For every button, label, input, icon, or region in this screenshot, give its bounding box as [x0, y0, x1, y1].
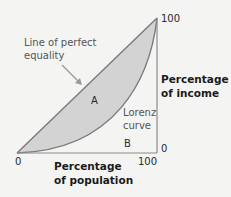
y-max-tick: 100 — [161, 13, 180, 25]
lorenz-label-line2: curve — [123, 120, 151, 132]
arrow-icon — [62, 65, 80, 83]
x-axis-title-line2: of population — [54, 174, 133, 187]
lorenz-label-line1: Lorenz — [123, 107, 156, 119]
equality-label-line2: equality — [24, 50, 64, 62]
equality-label-line1: Line of perfect — [24, 37, 97, 49]
y-min-tick: 0 — [161, 143, 167, 155]
y-axis-title-line2: of income — [161, 87, 219, 100]
y-axis-title-line1: Percentage — [161, 73, 229, 86]
x-min-tick: 0 — [15, 156, 21, 168]
x-axis-title-line1: Percentage — [54, 160, 122, 173]
region-b-label: B — [124, 138, 131, 150]
x-max-tick: 100 — [138, 156, 157, 168]
region-a-label: A — [91, 95, 98, 107]
